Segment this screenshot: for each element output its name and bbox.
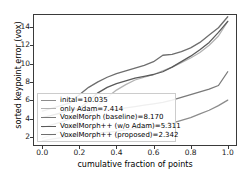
legend-item-label: inital=10.035 [60,96,108,104]
y-tick-mark [30,27,33,28]
legend-color-swatch [41,126,56,127]
x-tick-label: 1.0 [216,149,240,157]
legend-item-label: VoxelMorph++ (w/o Adam)=5.311 [60,122,181,130]
y-tick-mark [30,100,33,101]
legend-item-label: only Adam=7.414 [60,105,123,113]
chart-figure: 2468101214 0.00.20.40.60.81.0 cumulative… [0,0,245,174]
chart-legend: inital=10.035only Adam=7.414VoxelMorph (… [37,93,176,142]
legend-item[interactable]: VoxelMorph++ (w/o Adam)=5.311 [41,122,172,131]
legend-item[interactable]: inital=10.035 [41,96,172,105]
x-tick-label: 0.2 [67,149,91,157]
x-tick-mark [116,146,117,149]
legend-item[interactable]: VoxelMorph++ (proposed)=2.342 [41,130,172,139]
x-tick-label: 0.0 [30,149,54,157]
y-tick-mark [30,119,33,120]
x-tick-mark [79,146,80,149]
legend-item[interactable]: only Adam=7.414 [41,105,172,114]
legend-item-label: VoxelMorph++ (proposed)=2.342 [60,131,178,139]
x-tick-label: 0.8 [179,149,203,157]
x-tick-mark [228,146,229,149]
x-tick-label: 0.6 [142,149,166,157]
legend-color-swatch [41,117,56,118]
y-tick-mark [30,82,33,83]
x-tick-label: 0.4 [104,149,128,157]
x-tick-mark [154,146,155,149]
legend-color-swatch [41,134,56,135]
y-axis-label: sorted keypoint error (vox) [14,9,24,141]
legend-color-swatch [41,100,56,101]
legend-item[interactable]: VoxelMorph (baseline)=8.170 [41,113,172,122]
legend-color-swatch [41,108,56,109]
y-tick-mark [30,64,33,65]
x-axis-label: cumulative fraction of points [33,160,237,170]
legend-item-label: VoxelMorph (baseline)=8.170 [60,113,163,121]
y-tick-mark [30,45,33,46]
y-tick-mark [30,137,33,138]
x-tick-mark [191,146,192,149]
x-tick-mark [42,146,43,149]
